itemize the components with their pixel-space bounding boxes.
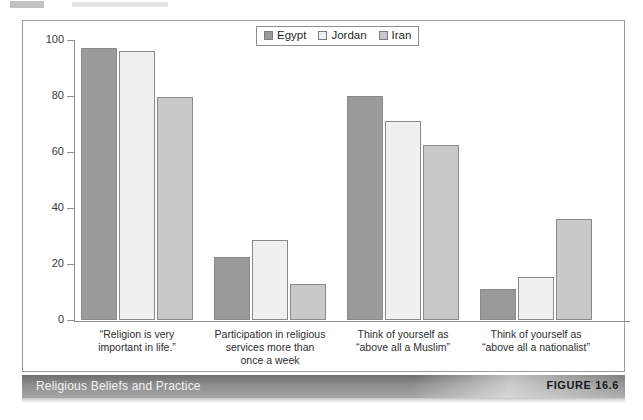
bar-group-3: [347, 40, 459, 320]
category-label-line: Think of yourself as: [470, 328, 602, 341]
figure-number-badge: FIGURE 16.6: [546, 379, 619, 391]
x-axis-category-label-4: Think of yourself as“above all a nationa…: [470, 328, 602, 354]
y-tick-label-wrap-0: 0: [23, 320, 64, 321]
category-label-line: once a week: [204, 354, 336, 367]
bar-egypt-group-1: [81, 48, 117, 320]
scan-artifact-right: [72, 2, 168, 7]
x-axis-line: [74, 321, 630, 322]
y-tick-label-80: 80: [24, 90, 64, 101]
x-axis-category-label-2: Participation in religiousservices more …: [204, 328, 336, 367]
x-axis-category-label-3: Think of yourself as“above all a Muslim”: [337, 328, 469, 354]
y-tick-label-wrap-20: 20: [23, 264, 64, 265]
y-tick-0: [67, 320, 75, 321]
scan-artifact-left: [10, 1, 44, 8]
y-tick-label-wrap-80: 80: [23, 96, 64, 97]
category-label-line: “above all a nationalist”: [470, 341, 602, 354]
bar-egypt-group-2: [214, 257, 250, 320]
bar-iran-group-4: [556, 219, 592, 320]
y-tick-label-wrap-100: 100: [23, 40, 64, 41]
bar-jordan-group-2: [252, 240, 288, 320]
category-label-line: “above all a Muslim”: [337, 341, 469, 354]
y-tick-label-wrap-40: 40: [23, 208, 64, 209]
bar-jordan-group-4: [518, 277, 554, 320]
legend-swatch-iran: [379, 31, 388, 40]
bar-group-2: [214, 40, 326, 320]
y-tick-label-40: 40: [24, 202, 64, 213]
bar-group-4: [480, 40, 592, 320]
category-label-line: Participation in religious: [204, 328, 336, 341]
bar-egypt-group-4: [480, 289, 516, 320]
bar-jordan-group-1: [119, 51, 155, 320]
y-tick-label-wrap-60: 60: [23, 152, 64, 153]
x-axis-category-label-1: “Religion is veryimportant in life.”: [71, 328, 203, 354]
figure-frame: Egypt Jordan Iran 100806040200“Religion …: [22, 20, 625, 372]
caption-shadow: [22, 398, 625, 403]
y-tick-60: [67, 152, 75, 153]
y-tick-80: [67, 96, 75, 97]
y-tick-label-0: 0: [24, 314, 64, 325]
category-label-line: services more than: [204, 341, 336, 354]
y-tick-40: [67, 208, 75, 209]
bar-group-1: [81, 40, 193, 320]
bar-iran-group-1: [157, 97, 193, 320]
legend-swatch-jordan: [318, 31, 327, 40]
y-tick-label-100: 100: [24, 34, 64, 45]
legend-swatch-egypt: [264, 31, 273, 40]
category-label-line: Think of yourself as: [337, 328, 469, 341]
bar-iran-group-2: [290, 284, 326, 320]
bar-iran-group-3: [423, 145, 459, 320]
category-label-line: “Religion is very: [71, 328, 203, 341]
y-tick-label-60: 60: [24, 146, 64, 157]
y-tick-100: [67, 40, 75, 41]
plot-area: [75, 40, 626, 320]
figure-caption-title: Religious Beliefs and Practice: [36, 379, 201, 393]
category-label-line: important in life.”: [71, 341, 203, 354]
figure-caption-bar: Religious Beliefs and Practice FIGURE 16…: [22, 375, 625, 398]
bar-egypt-group-3: [347, 96, 383, 320]
bar-jordan-group-3: [385, 121, 421, 320]
y-tick-20: [67, 264, 75, 265]
y-tick-label-20: 20: [24, 258, 64, 269]
page-top-artifacts: [0, 0, 643, 14]
